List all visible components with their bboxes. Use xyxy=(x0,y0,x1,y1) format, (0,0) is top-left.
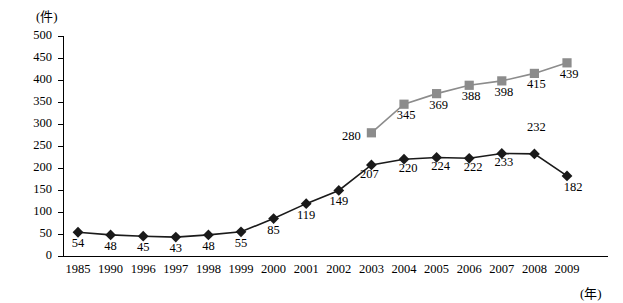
data-point-label: 232 xyxy=(519,120,553,135)
data-point-label: 369 xyxy=(422,98,456,113)
data-point-label: 345 xyxy=(389,108,423,123)
chart-plot-area xyxy=(0,0,623,303)
data-point-label: 85 xyxy=(257,223,291,238)
data-point-label: 54 xyxy=(61,236,95,251)
chart-container: (件) (年) 050100150200250300350400450500 1… xyxy=(0,0,623,303)
data-point-label: 415 xyxy=(519,77,553,92)
data-point-label: 439 xyxy=(552,67,586,82)
data-point-label: 43 xyxy=(159,241,193,256)
data-point-label: 224 xyxy=(424,159,458,174)
data-point-label: 233 xyxy=(487,155,521,170)
diamond-marker xyxy=(529,149,540,160)
data-point-label: 55 xyxy=(224,236,258,251)
data-point-label: 45 xyxy=(126,240,160,255)
data-point-label: 182 xyxy=(556,180,590,195)
data-point-label: 280 xyxy=(334,129,368,144)
data-point-label: 388 xyxy=(454,89,488,104)
data-point-label: 48 xyxy=(94,239,128,254)
data-point-label: 48 xyxy=(191,239,225,254)
data-point-label: 222 xyxy=(456,160,490,175)
data-point-label: 220 xyxy=(391,161,425,176)
data-point-label: 207 xyxy=(352,167,386,182)
data-point-label: 149 xyxy=(322,194,356,209)
data-point-label: 119 xyxy=(289,208,323,223)
data-point-label: 398 xyxy=(487,85,521,100)
